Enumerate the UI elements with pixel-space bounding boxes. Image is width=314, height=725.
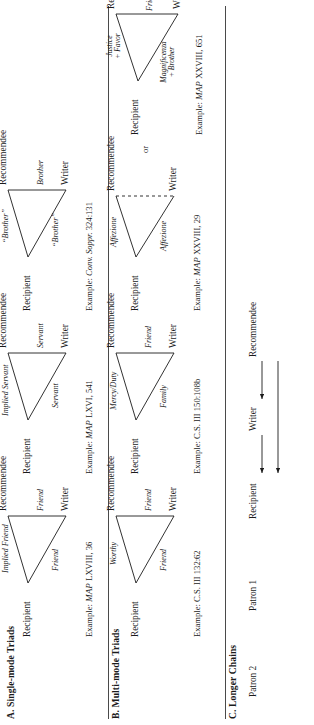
triad-a1-citation: Example: MAP LXVIII, 36	[84, 542, 94, 637]
triad-b2-citation-prefix: Example:	[192, 439, 202, 474]
triad-b4-edge-left-label: Magnificenza + Brother	[160, 31, 176, 93]
triad-b1: Recipient Worthy Friend Friend Recommend…	[112, 472, 212, 635]
triad-connector: or	[112, 133, 212, 159]
triad-b4-node-writer: Writer	[172, 0, 182, 9]
triad-a3-edge-right-label: “Brother”	[2, 209, 10, 243]
triad-a3-edge-left-label: “Brother”	[52, 213, 60, 247]
triad-b1-edge-right-label: Worthy	[110, 542, 118, 565]
triad-b2-edge-left-label: Family	[160, 385, 168, 408]
triad-b4-citation-prefix: Example:	[194, 100, 204, 135]
section-a-label: A. Single-mode Triads	[5, 626, 16, 719]
triad-b3-citation: Example: MAP XXVIII, 29	[192, 215, 202, 311]
section-multi-mode-triads: B. Multi-mode Triads Recipient Worthy Fr…	[108, 6, 226, 719]
triad-a1-citation-source: MAP	[84, 583, 94, 602]
triad-b1-citation: Example: C.S. III 132:62	[192, 550, 202, 637]
figure-rotation-container: A. Single-mode Triads Recipient Implied …	[0, 0, 314, 725]
figure-root: A. Single-mode Triads Recipient Implied …	[0, 0, 314, 725]
triad-b4-node-recommendee: Recommendee	[106, 0, 116, 9]
triad-a3-node-writer: Writer	[60, 161, 70, 185]
triad-a1-citation-locus: LXVIII, 36	[84, 542, 94, 583]
section-b-triads-row: Recipient Worthy Friend Friend Recommend…	[112, 6, 212, 719]
triad-a1-citation-prefix: Example:	[84, 602, 94, 637]
triad-a2-citation-locus: LXVI, 541	[84, 380, 94, 420]
triad-a3-edge-base-label: Brother	[37, 160, 45, 185]
triad-a3-citation-prefix: Example:	[84, 276, 94, 311]
triad-a1-edge-right-label: Implied Friend	[2, 524, 10, 573]
triad-b4-edge-base-label: Friend + Worthy	[146, 0, 154, 11]
triad-a2: Recipient Implied Servant Servant Servan…	[4, 309, 104, 472]
triad-a3-node-recommendee: Recommendee	[0, 130, 8, 185]
triad-b2-node-writer: Writer	[168, 324, 178, 348]
triad-b3-node-writer: Writer	[168, 167, 178, 191]
triad-a3-citation-source: Conv. Soppr.	[84, 232, 94, 276]
triad-b3: Recipient Affezione Affezione Recommende…	[112, 159, 212, 309]
triad-a3: Recipient “Brother” “Brother” Brother Re…	[4, 146, 104, 309]
triad-b4-citation: Example: MAP XXVIII, 651	[194, 34, 204, 135]
triad-b1-citation-prefix: Example:	[192, 602, 202, 637]
triad-a2-node-writer: Writer	[60, 324, 70, 348]
triad-b1-edge-base-label: Friend	[145, 489, 153, 511]
triad-a2-edge-base-label: Servant	[37, 323, 45, 348]
triad-a2-citation-source: MAP	[84, 420, 94, 439]
triad-a3-citation-locus: 324:131	[84, 202, 94, 232]
section-longer-chains: C. Longer Chains Patron 2 Patron 1 Recip…	[226, 6, 312, 719]
chain-arrows	[228, 249, 304, 719]
triad-a1: Recipient Implied Friend Friend Friend R…	[4, 472, 104, 635]
triad-a2-edge-right-label: Implied Servant	[2, 365, 10, 416]
triad-a2-citation-prefix: Example:	[84, 439, 94, 474]
section-a-triads-row: Recipient Implied Friend Friend Friend R…	[4, 6, 104, 719]
triad-b4-citation-source: MAP	[194, 81, 204, 100]
triad-a1-edge-base-label: Friend	[37, 489, 45, 511]
triad-b2-edge-base-label: Friend	[145, 326, 153, 348]
triad-connector-word: or	[140, 146, 150, 153]
chain-diagram: Patron 2 Patron 1 Recipient Writer Recom…	[228, 6, 304, 719]
triad-b4: Recipient Justice + Favor Magnificenza +…	[112, 0, 212, 133]
triad-a2-edge-left-label: Servant	[52, 383, 60, 408]
triad-b1-node-writer: Writer	[168, 487, 178, 511]
triad-b3-citation-prefix: Example:	[192, 276, 202, 311]
triad-b2-edge-right-label: Mercy/Duty	[110, 372, 118, 410]
triad-b3-citation-locus: XXVIII, 29	[192, 215, 202, 257]
triad-a1-edge-left-label: Friend	[52, 549, 60, 571]
triad-b2-citation-locus: C.S. III 150:108b	[192, 379, 202, 439]
triad-b3-edge-left-label: Affezione	[160, 221, 168, 251]
section-b-label: B. Multi-mode Triads	[110, 629, 121, 719]
triad-b4-citation-locus: XXVIII, 651	[194, 34, 204, 81]
triad-b3-citation-source: MAP	[192, 257, 202, 276]
triad-b4-edge-right-label: Justice + Favor	[106, 21, 122, 71]
triad-b2: Recipient Mercy/Duty Family Friend Recom…	[112, 309, 212, 472]
triad-b3-edge-right-label: Affezione	[110, 217, 118, 247]
triad-a3-citation: Example: Conv. Soppr. 324:131	[84, 202, 94, 311]
triad-b1-citation-locus: C.S. III 132:62	[192, 550, 202, 602]
section-single-mode-triads: A. Single-mode Triads Recipient Implied …	[4, 6, 108, 719]
triad-a2-citation: Example: MAP LXVI, 541	[84, 380, 94, 474]
triad-b2-citation: Example: C.S. III 150:108b	[192, 379, 202, 474]
triad-b1-edge-left-label: Friend	[160, 549, 168, 571]
triad-a1-node-writer: Writer	[60, 487, 70, 511]
